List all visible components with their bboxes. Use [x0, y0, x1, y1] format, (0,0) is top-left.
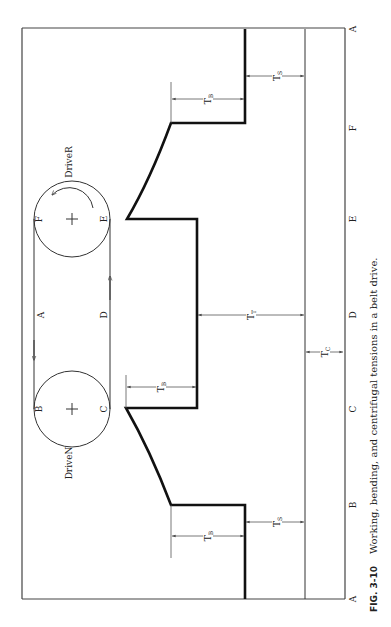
- label-ts-top: TS: [272, 69, 283, 83]
- svg-text:A: A: [348, 595, 358, 603]
- svg-text:F: F: [348, 125, 358, 131]
- belt: A D: [34, 219, 110, 409]
- svg-text:B: B: [348, 501, 358, 508]
- driven-label: DriveN: [64, 447, 74, 480]
- figure-caption-text: Working, bending, and centrifugal tensio…: [368, 257, 379, 554]
- frame: [22, 28, 345, 599]
- driver-pulley: F E DriveR: [34, 146, 110, 257]
- driver-label: DriveR: [64, 146, 74, 178]
- figure-caption: FIG. 3-10 Working, bending, and centrifu…: [368, 257, 379, 612]
- svg-text:C: C: [348, 405, 358, 412]
- belt-tension-diagram: TB TS TB TT TC TB TS F E DriveR B C: [0, 0, 391, 627]
- svg-text:E: E: [348, 216, 358, 223]
- belt-label-d: D: [99, 311, 109, 318]
- tension-profile: [126, 29, 245, 599]
- pulley-point-c: C: [99, 405, 109, 412]
- pulley-point-e: E: [99, 216, 109, 223]
- figure-number: FIG. 3-10: [369, 566, 379, 612]
- label-tt: TT: [246, 308, 257, 322]
- pulley-point-f: F: [34, 216, 44, 222]
- axis-labels: A F E D C B A: [348, 25, 358, 603]
- label-tb-mid: TB: [156, 380, 167, 394]
- belt-label-a: A: [36, 311, 46, 319]
- svg-text:A: A: [348, 25, 358, 33]
- pulley-point-b: B: [34, 405, 44, 412]
- rotation-arrow-icon: [52, 188, 93, 208]
- label-tb-top: TB: [203, 92, 214, 106]
- label-tc: TC: [320, 345, 331, 359]
- label-ts-bottom: TS: [272, 515, 283, 529]
- label-tb-bottom: TB: [203, 529, 214, 543]
- driven-pulley: B C DriveN: [34, 371, 110, 479]
- svg-text:D: D: [348, 311, 358, 318]
